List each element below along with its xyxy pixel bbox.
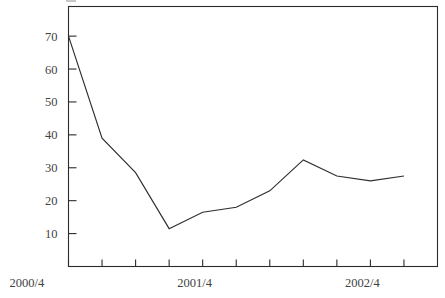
chart-canvas: 10203040506070 2000/42001/42002/4 (0, 0, 445, 298)
chart-background (0, 0, 445, 298)
y-tick-label: 60 (45, 63, 58, 77)
x-tick-label: 2000/4 (10, 276, 45, 290)
y-tick-label: 40 (45, 128, 58, 142)
y-tick-label: 10 (45, 227, 58, 241)
y-tick-label: 70 (45, 30, 58, 44)
y-tick-label: 50 (45, 95, 58, 109)
line-chart: 10203040506070 2000/42001/42002/4 (0, 0, 445, 298)
x-tick-label: 2001/4 (177, 276, 212, 290)
top-edge-artifact (66, 0, 76, 2)
y-tick-label: 20 (45, 194, 58, 208)
x-tick-label: 2002/4 (345, 276, 380, 290)
y-tick-label: 30 (45, 161, 58, 175)
